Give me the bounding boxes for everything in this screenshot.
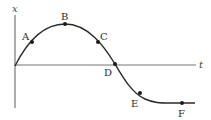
position-time-graph: x t ABCDEF (0, 0, 211, 120)
horizontal-axis-label: t (199, 59, 204, 70)
point-d-marker (113, 62, 117, 66)
point-b-marker (63, 22, 67, 26)
point-a-label: A (21, 31, 30, 42)
point-d-label: D (104, 67, 112, 78)
point-c-label: C (100, 31, 108, 42)
point-a-marker (30, 40, 34, 44)
point-b-label: B (61, 11, 68, 22)
vertical-axis-label: x (12, 3, 18, 14)
point-e-label: E (131, 98, 138, 109)
point-f-label: F (178, 108, 185, 119)
point-f-marker (180, 101, 184, 105)
point-e-marker (138, 91, 142, 95)
